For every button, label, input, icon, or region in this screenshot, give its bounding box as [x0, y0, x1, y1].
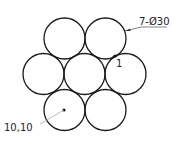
- circle-1: [44, 18, 85, 59]
- gap-label: 1: [116, 58, 122, 69]
- coordinate-label: 10,10: [4, 122, 33, 133]
- circle-4: [64, 54, 105, 95]
- diameter-leader-arrow: [125, 29, 131, 32]
- diameter-label: 7-Ø30: [139, 16, 170, 27]
- circle-5: [105, 54, 146, 95]
- circle-3: [23, 54, 64, 95]
- circle-2: [85, 18, 126, 59]
- cad-drawing: 7-Ø30 1 10,10: [0, 0, 174, 147]
- circle-pattern: [23, 18, 146, 131]
- circle-7: [85, 90, 126, 131]
